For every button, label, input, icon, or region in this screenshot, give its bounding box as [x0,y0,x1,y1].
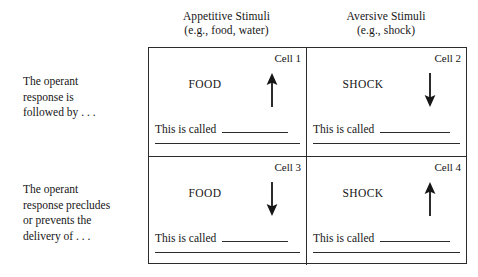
cell-3-called-label: This is called [155,232,216,245]
row-label-line: delivery of . . . [23,229,145,245]
cell-1-called-row: This is called [155,121,300,136]
matrix-cell-1[interactable]: Cell 1 FOOD This is called [149,48,306,156]
row-label-line: The operant [23,182,145,198]
cell-3-called-row: This is called [155,230,300,245]
cell-4-answer-blank[interactable] [380,230,450,242]
row-label-response-followed-by: The operant response is followed by . . … [23,74,145,121]
matrix-row-precludes: Cell 3 FOOD This is called Cell 4 SHOCK [149,156,466,265]
row-label-line: followed by . . . [23,105,145,121]
cell-3-stimulus: FOOD [157,187,253,200]
column-header-aversive: Aversive Stimuli (e.g., shock) [305,9,467,37]
cell-3-second-blank-line[interactable] [155,252,300,253]
cell-1-called-label: This is called [155,123,216,136]
matrix-cell-3[interactable]: Cell 3 FOOD This is called [149,157,306,265]
column-header-appetitive-title: Appetitive Stimuli [148,9,305,23]
matrix-cell-4[interactable]: Cell 4 SHOCK This is called [306,157,466,265]
cell-4-number: Cell 4 [434,161,461,174]
column-header-appetitive: Appetitive Stimuli (e.g., food, water) [148,9,305,37]
cell-3-answer-blank[interactable] [222,230,288,242]
cell-2-stimulus: SHOCK [315,78,411,91]
matrix-table: Cell 1 FOOD This is called Cell 2 SHOCK [148,47,467,264]
cell-2-number: Cell 2 [434,52,461,65]
matrix-row-followed-by: Cell 1 FOOD This is called Cell 2 SHOCK [149,48,466,156]
cell-4-second-blank-line[interactable] [313,252,460,253]
cell-1-stimulus: FOOD [157,78,253,91]
column-header-aversive-examples: (e.g., shock) [305,23,467,37]
row-label-line: or prevents the [23,213,145,229]
cell-2-called-row: This is called [313,121,460,136]
row-label-line: The operant [23,74,145,90]
arrow-up-icon [261,70,283,108]
row-label-line: response precludes [23,198,145,214]
column-header-aversive-title: Aversive Stimuli [305,9,467,23]
contingency-matrix-figure: Appetitive Stimuli (e.g., food, water) A… [0,0,478,277]
arrow-down-icon [261,179,283,217]
arrow-down-icon [419,70,441,108]
column-header-appetitive-examples: (e.g., food, water) [148,23,305,37]
row-label-line: response is [23,90,145,106]
cell-4-stimulus: SHOCK [315,187,411,200]
cell-2-second-blank-line[interactable] [313,143,460,144]
cell-3-number: Cell 3 [274,161,301,174]
cell-4-called-label: This is called [313,232,374,245]
cell-1-answer-blank[interactable] [222,121,288,133]
matrix-cell-2[interactable]: Cell 2 SHOCK This is called [306,48,466,156]
row-label-response-precludes: The operant response precludes or preven… [23,182,145,244]
cell-4-called-row: This is called [313,230,460,245]
cell-1-second-blank-line[interactable] [155,143,300,144]
cell-2-called-label: This is called [313,123,374,136]
cell-1-number: Cell 1 [274,52,301,65]
arrow-up-icon [419,179,441,217]
cell-2-answer-blank[interactable] [380,121,450,133]
